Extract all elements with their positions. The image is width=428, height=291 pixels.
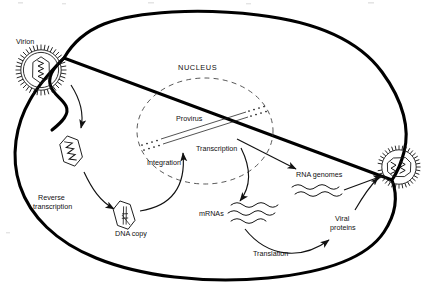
capsid-rna-genome [65, 140, 77, 162]
virion-label: Virion [16, 37, 34, 46]
entering-virion [16, 45, 67, 96]
integration-label: Integration [147, 158, 181, 167]
translation-label: Translation [253, 249, 288, 258]
reverse-transcription-label-line1: Reverse [38, 193, 65, 202]
host-chromosome-right [248, 106, 267, 117]
rna-genome-strands [292, 185, 342, 197]
mrna-strands [228, 203, 278, 224]
rna-to-budding-arrow [344, 176, 382, 190]
entry-arrow [71, 85, 82, 128]
mrnas-label: mRNAs [199, 209, 224, 218]
transcription-label: Transcription [196, 144, 237, 153]
protein-to-budding-arrow [355, 178, 378, 210]
uncoated-capsid [58, 134, 84, 169]
provirus-label: Provirus [176, 114, 203, 123]
viral-proteins-label-line2: proteins [330, 223, 356, 232]
dna-copy-capsid [111, 198, 137, 231]
nucleus-label: NUCLEUS [178, 63, 217, 72]
dna-copy-label: DNA copy [115, 229, 147, 238]
rna-genomes-label: RNA genomes [296, 170, 343, 179]
host-chromosome-left [141, 140, 160, 151]
viral-proteins-label-line1: Viral [335, 214, 350, 223]
reverse-transcription-arrow [84, 172, 114, 209]
dna-strands [118, 206, 131, 226]
reverse-transcription-label-line2: transcription [33, 202, 72, 211]
virion-rna-genome [38, 61, 44, 79]
budding-virion-rna [391, 162, 396, 173]
transcription-to-mrnas-arrow [240, 148, 248, 201]
figure-canvas: Virion Reverse transcription DNA copy In… [0, 0, 428, 291]
transcription-to-rna-genomes-arrow [237, 139, 296, 169]
